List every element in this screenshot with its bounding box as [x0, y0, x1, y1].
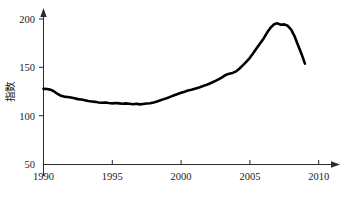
y-tick-label-150: 150	[19, 62, 35, 73]
y-tick-label-200: 200	[19, 14, 35, 25]
x-tick-label-2005: 2005	[239, 171, 260, 182]
data-series-line	[44, 23, 305, 104]
y-tick-label-100: 100	[19, 111, 35, 122]
y-axis-title: 指数	[4, 81, 16, 102]
y-axis-arrow-icon	[40, 8, 46, 17]
x-tick-label-1995: 1995	[102, 171, 123, 182]
y-tick-label-50: 50	[25, 159, 36, 170]
chart-container: 200 150 100 50 1990 1995 2000 2005 2010 …	[0, 0, 346, 199]
x-axis-arrow-icon	[331, 161, 340, 167]
line-chart: 200 150 100 50 1990 1995 2000 2005 2010 …	[0, 0, 346, 199]
x-tick-label-2010: 2010	[308, 171, 329, 182]
x-tick-label-1990: 1990	[33, 171, 54, 182]
x-tick-label-2000: 2000	[171, 171, 192, 182]
